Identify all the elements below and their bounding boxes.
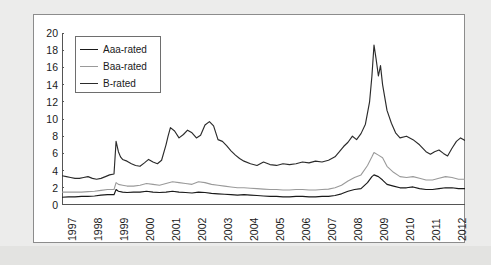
x-tick-label: 2002 xyxy=(196,218,208,241)
x-tick-label: 2006 xyxy=(300,218,312,241)
y-tick-label: 6 xyxy=(32,148,58,158)
chart-screenshot: Yield spread (%) 20181614121086420 19971… xyxy=(0,0,491,265)
x-axis-tick-labels: 1997199819992000200120022003200420052006… xyxy=(62,209,465,243)
x-tick-label: 2009 xyxy=(378,218,390,241)
y-tick-label: 0 xyxy=(32,200,58,210)
x-tick-label: 2000 xyxy=(144,218,156,241)
page-background-band xyxy=(0,246,491,265)
y-axis-tick-labels: 20181614121086420 xyxy=(29,33,58,205)
chart-legend: Aaa-ratedBaa-ratedB-rated xyxy=(75,36,161,93)
x-tick-label: 1997 xyxy=(66,218,78,241)
legend-label: Aaa-rated xyxy=(103,44,147,55)
x-tick-label: 1999 xyxy=(118,218,130,241)
y-tick-label: 14 xyxy=(32,80,58,90)
legend-swatch-icon xyxy=(80,83,98,84)
legend-label: Baa-rated xyxy=(103,61,147,72)
legend-swatch-icon xyxy=(80,49,98,50)
y-tick-label: 16 xyxy=(32,62,58,72)
x-tick-label: 2007 xyxy=(326,218,338,241)
series-line-aaa-rated xyxy=(62,175,465,197)
x-tick-label: 2010 xyxy=(404,218,416,241)
x-tick-label: 2003 xyxy=(222,218,234,241)
y-tick-label: 4 xyxy=(32,166,58,176)
y-tick-label: 18 xyxy=(32,45,58,55)
x-tick-label: 2001 xyxy=(170,218,182,241)
x-tick-label: 2005 xyxy=(274,218,286,241)
x-tick-label: 1998 xyxy=(92,218,104,241)
y-tick-label: 2 xyxy=(32,183,58,193)
x-tick-label: 2011 xyxy=(430,218,442,241)
x-tick-label: 2008 xyxy=(352,218,364,241)
y-tick-label: 20 xyxy=(32,28,58,38)
legend-item-baa-rated: Baa-rated xyxy=(80,58,160,75)
legend-swatch-icon xyxy=(80,66,98,67)
x-tick-label: 2012 xyxy=(456,218,468,241)
y-tick-label: 10 xyxy=(32,114,58,124)
y-tick-label: 8 xyxy=(32,131,58,141)
x-tick-label: 2004 xyxy=(248,218,260,241)
legend-label: B-rated xyxy=(103,78,136,89)
legend-item-b-rated: B-rated xyxy=(80,75,160,92)
legend-item-aaa-rated: Aaa-rated xyxy=(80,41,160,58)
y-tick-label: 12 xyxy=(32,97,58,107)
